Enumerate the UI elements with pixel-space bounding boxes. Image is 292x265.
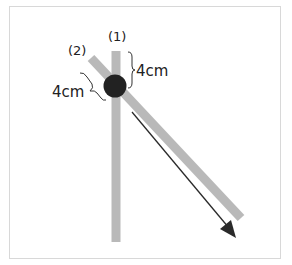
brace-vertical-icon: [128, 52, 135, 88]
motion-arrow-line: [132, 112, 229, 228]
label-rod-1: (1): [108, 29, 126, 44]
label-rod-2: (2): [68, 43, 86, 58]
label-dist-diagonal: 4cm: [52, 83, 84, 101]
diagram-canvas: (1) (2) 4cm 4cm: [0, 0, 292, 265]
ball: [104, 75, 127, 98]
label-dist-vertical: 4cm: [136, 62, 168, 80]
arrow-head-icon: [220, 220, 236, 238]
